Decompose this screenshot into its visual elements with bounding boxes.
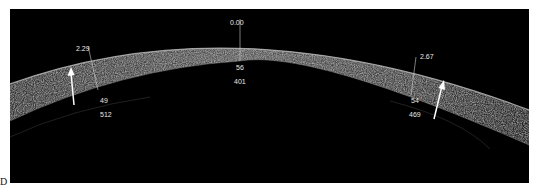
right-total-label: 469 — [409, 111, 421, 118]
cornea-scan — [10, 9, 529, 183]
left-total-label: 512 — [100, 111, 112, 118]
left-epithelium-label: 49 — [100, 97, 108, 104]
left-offset-label: 2.29 — [76, 45, 90, 52]
center-total-label: 401 — [234, 78, 246, 85]
center-epithelium-label: 56 — [236, 64, 244, 71]
oct-image-panel: 2.29 49 512 0.00 56 401 2.67 54 469 — [10, 9, 529, 183]
cornea-band — [10, 9, 529, 183]
center-offset-label: 0.00 — [230, 19, 244, 26]
right-epithelium-label: 54 — [411, 97, 419, 104]
right-offset-label: 2.67 — [420, 53, 434, 60]
panel-label: D — [0, 176, 7, 187]
